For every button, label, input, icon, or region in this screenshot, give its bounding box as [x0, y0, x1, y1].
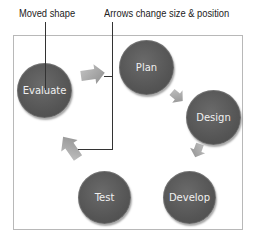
node-develop[interactable]: Develop — [163, 171, 216, 224]
node-design[interactable]: Design — [186, 90, 241, 145]
node-test[interactable]: Test — [78, 171, 131, 224]
callout-line-arrows-vertical — [112, 22, 113, 150]
node-label: Design — [196, 112, 231, 123]
arrow-design-to-develop — [188, 141, 208, 160]
node-plan[interactable]: Plan — [119, 40, 174, 95]
arrow-plan-to-design — [167, 86, 188, 107]
node-label: Test — [95, 192, 115, 203]
callout-line-arrows-top-branch — [104, 76, 113, 77]
callout-line-moved-shape — [45, 22, 46, 90]
callout-line-arrows-bottom-branch — [78, 149, 113, 150]
node-label: Develop — [169, 192, 210, 203]
node-label: Plan — [136, 62, 157, 73]
arrow-evaluate-to-plan — [80, 63, 107, 86]
arrow-test-to-evaluate — [55, 131, 86, 164]
